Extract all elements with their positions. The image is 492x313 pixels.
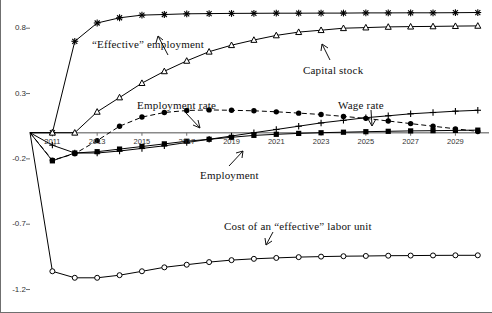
chart-plot-area bbox=[0, 0, 492, 313]
arrow-wage-rate bbox=[368, 110, 376, 126]
x-tick-label: 2011 bbox=[36, 137, 68, 146]
arrow-employment bbox=[229, 151, 243, 166]
annotation-wage-rate: Wage rate bbox=[338, 99, 384, 111]
y-tick-label: 0.3 bbox=[0, 89, 26, 98]
x-tick-label: 2019 bbox=[216, 137, 248, 146]
y-tick-label: 0.8 bbox=[0, 23, 26, 32]
chart-container: 0.80.3-0.2-0.7-1.2 201120132015201720192… bbox=[0, 0, 492, 313]
x-tick-label: 2021 bbox=[260, 137, 292, 146]
y-tick-label: -0.2 bbox=[0, 154, 26, 163]
x-tick-label: 2015 bbox=[126, 137, 158, 146]
annotation-cost-effective-labor-unit: Cost of an “effective” labor unit bbox=[224, 220, 372, 232]
x-tick-label: 2027 bbox=[395, 137, 427, 146]
x-tick-label: 2017 bbox=[171, 137, 203, 146]
arrow-employment-rate bbox=[186, 113, 200, 128]
x-tick-label: 2023 bbox=[305, 137, 337, 146]
annotation-employment-rate: Employment rate bbox=[137, 99, 216, 111]
x-tick-label: 2025 bbox=[350, 137, 382, 146]
y-tick-label: -1.2 bbox=[0, 285, 26, 294]
x-tick-label: 2013 bbox=[81, 137, 113, 146]
annotation-effective-employment: “Effective” employment bbox=[92, 38, 204, 50]
arrow-cost-labor-unit bbox=[265, 232, 273, 245]
annotation-capital-stock: Capital stock bbox=[303, 64, 363, 76]
annotation-employment: Employment bbox=[200, 169, 259, 181]
x-tick-label: 2029 bbox=[439, 137, 471, 146]
axis-layer bbox=[26, 28, 489, 289]
arrow-capital-stock bbox=[321, 44, 330, 60]
y-tick-label: -0.7 bbox=[0, 219, 26, 228]
